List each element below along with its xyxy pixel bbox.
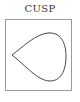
cusp-curve-icon: [0, 0, 80, 102]
